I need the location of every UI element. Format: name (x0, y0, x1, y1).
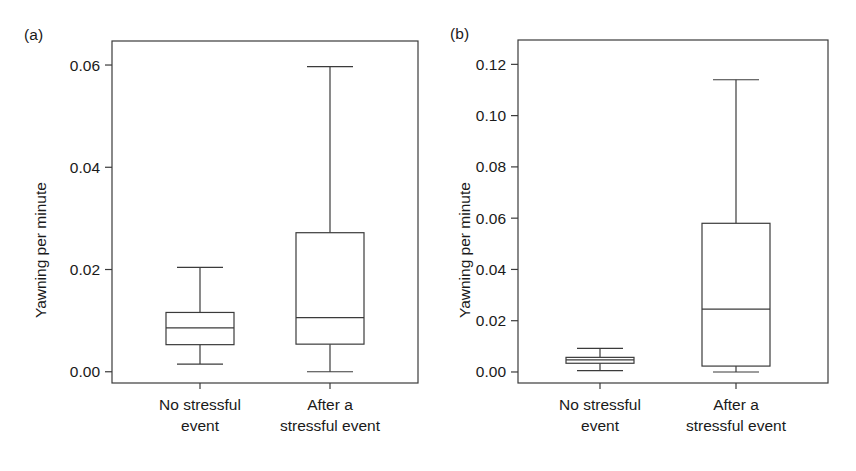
y-tick-label: 0.08 (476, 158, 506, 175)
y-tick-label: 0.00 (70, 363, 101, 380)
y-tick-label: 0.04 (70, 159, 101, 176)
y-tick-label: 0.06 (476, 210, 506, 227)
x-tick-label: No stressful (159, 396, 241, 413)
box-iqr (166, 312, 234, 344)
x-tick-label: stressful event (686, 417, 787, 434)
panel-b: (b) Yawning per minute 0.000.020.040.060… (428, 0, 856, 471)
y-tick-label: 0.10 (476, 107, 507, 124)
panel-a-plot: 0.000.020.040.06No stressfuleventAfter a… (0, 0, 428, 471)
plot-frame (112, 41, 418, 383)
x-tick-label: No stressful (559, 396, 641, 413)
boxplot-box (566, 348, 634, 370)
x-tick-label: event (581, 417, 620, 434)
box-iqr (702, 223, 770, 366)
x-tick-label: stressful event (280, 417, 381, 434)
y-tick-label: 0.12 (476, 56, 506, 73)
x-tick-label: After a (307, 396, 353, 413)
y-tick-label: 0.00 (476, 363, 507, 380)
boxplot-box (166, 267, 234, 364)
plot-frame (518, 40, 828, 383)
y-tick-label: 0.04 (476, 261, 507, 278)
box-iqr (296, 233, 364, 344)
panel-a: (a) Yawning per minute 0.000.020.040.06N… (0, 0, 428, 471)
y-tick-label: 0.06 (70, 57, 100, 74)
y-tick-label: 0.02 (70, 261, 100, 278)
y-tick-label: 0.02 (476, 312, 506, 329)
panel-b-plot: 0.000.020.040.060.080.100.12No stressful… (428, 0, 856, 471)
boxplot-box (296, 67, 364, 372)
x-tick-label: event (181, 417, 220, 434)
x-tick-label: After a (713, 396, 759, 413)
boxplot-figure: (a) Yawning per minute 0.000.020.040.06N… (0, 0, 856, 471)
boxplot-box (702, 80, 770, 372)
